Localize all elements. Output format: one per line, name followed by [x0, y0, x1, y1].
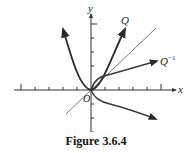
- y-axis: [91, 14, 97, 132]
- figure-caption: Figure 3.6.4: [0, 134, 192, 149]
- curve-q-label: Q: [121, 14, 129, 26]
- diagonal-line-y-equals-x: [66, 28, 156, 114]
- curve-q-inverse-lower: [91, 90, 156, 119]
- origin-label: O: [83, 93, 90, 104]
- x-axis-label: x: [177, 83, 183, 95]
- figure-diagram: y x O Q Q−1: [0, 0, 192, 132]
- curve-q-inverse-label: Q−1: [160, 54, 176, 67]
- curve-q-inverse-upper: [91, 61, 157, 90]
- y-axis-label: y: [87, 2, 93, 14]
